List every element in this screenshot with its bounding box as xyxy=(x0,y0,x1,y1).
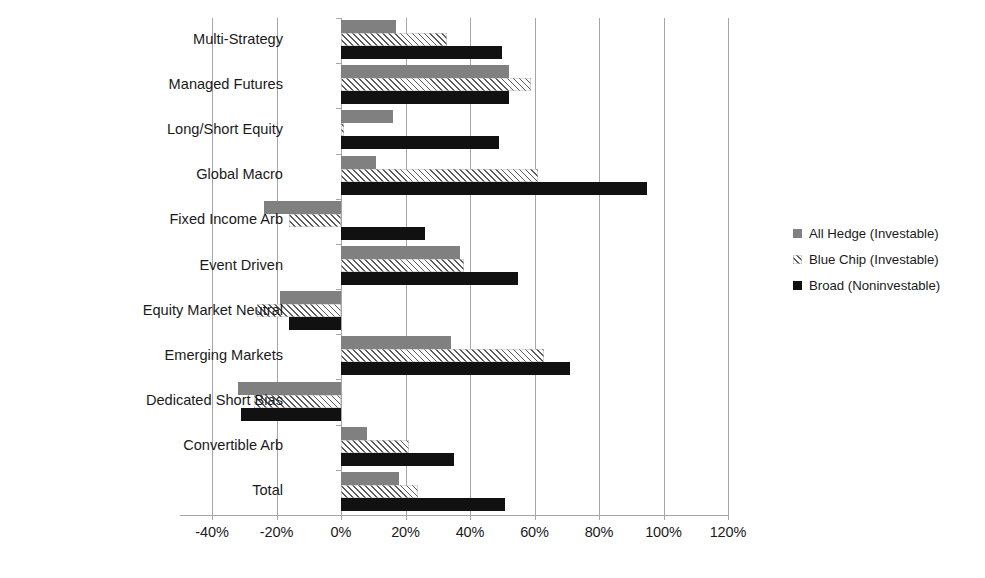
bar xyxy=(341,472,399,485)
category-tickmark xyxy=(336,379,341,380)
bar xyxy=(341,136,499,149)
legend-item[interactable]: Broad (Noninvestable) xyxy=(793,272,983,298)
bar xyxy=(341,485,418,498)
category-tickmark xyxy=(336,154,341,155)
bar xyxy=(341,246,460,259)
category-tickmark xyxy=(336,63,341,64)
bar xyxy=(341,78,531,91)
legend-label: Blue Chip (Investable) xyxy=(809,252,939,267)
bar xyxy=(341,169,538,182)
bar xyxy=(241,408,341,421)
category-tickmark xyxy=(336,289,341,290)
x-tickmark xyxy=(277,515,278,520)
x-tickmark xyxy=(599,515,600,520)
x-tickmark xyxy=(470,515,471,520)
category-label: Multi-Strategy xyxy=(193,32,283,47)
bar xyxy=(341,110,393,123)
bar xyxy=(341,453,454,466)
category-label: Event Driven xyxy=(199,258,283,273)
bar xyxy=(280,291,341,304)
category-label: Equity Market Neutral xyxy=(143,303,283,318)
legend-label: Broad (Noninvestable) xyxy=(809,278,940,293)
x-tickmark xyxy=(406,515,407,520)
bar xyxy=(341,362,570,375)
x-axis-line xyxy=(180,515,729,516)
category-tickmark xyxy=(336,199,341,200)
category-tickmark xyxy=(336,425,341,426)
x-tickmark xyxy=(664,515,665,520)
x-tickmark xyxy=(728,515,729,520)
x-tickmark xyxy=(212,515,213,520)
bar xyxy=(341,227,425,240)
bar xyxy=(341,272,518,285)
category-label: Emerging Markets xyxy=(165,348,283,363)
legend-item[interactable]: Blue Chip (Investable) xyxy=(793,246,983,272)
bar xyxy=(341,349,544,362)
category-label: Long/Short Equity xyxy=(167,122,283,137)
bar xyxy=(341,440,409,453)
legend-swatch-icon xyxy=(793,229,802,238)
bar xyxy=(341,123,344,136)
x-tickmark xyxy=(535,515,536,520)
gridline-60 xyxy=(535,18,536,515)
category-label: Total xyxy=(252,483,283,498)
legend-item[interactable]: All Hedge (Investable) xyxy=(793,220,983,246)
legend-swatch-icon xyxy=(793,255,802,264)
bar xyxy=(341,498,505,511)
category-tickmark xyxy=(336,334,341,335)
legend-swatch-icon xyxy=(793,281,802,290)
category-label: Convertible Arb xyxy=(183,438,283,453)
plot-area xyxy=(341,18,728,515)
gridline-100 xyxy=(664,18,665,515)
x-tick-label: 120% xyxy=(688,524,768,540)
x-tickmark xyxy=(341,515,342,520)
bar xyxy=(341,20,396,33)
bar xyxy=(341,91,509,104)
bar xyxy=(341,65,509,78)
category-tickmark xyxy=(336,244,341,245)
bar xyxy=(341,259,464,272)
category-label: Fixed Income Arb xyxy=(169,212,283,227)
legend-label: All Hedge (Investable) xyxy=(809,226,939,241)
gridline-120 xyxy=(728,18,729,515)
bar xyxy=(341,336,451,349)
bar xyxy=(289,317,341,330)
category-tickmark xyxy=(336,470,341,471)
category-label: Global Macro xyxy=(196,167,283,182)
chart-legend: All Hedge (Investable)Blue Chip (Investa… xyxy=(793,220,983,298)
bar xyxy=(341,33,447,46)
bar xyxy=(289,214,341,227)
gridline-80 xyxy=(599,18,600,515)
category-label: Managed Futures xyxy=(169,77,283,92)
bar xyxy=(341,427,367,440)
bar xyxy=(341,46,502,59)
bar-chart: -40%-20%0%20%40%60%80%100%120% Multi-Str… xyxy=(0,0,985,578)
category-tickmark xyxy=(336,18,341,19)
bar xyxy=(341,156,376,169)
category-tickmark xyxy=(336,108,341,109)
category-label: Dedicated Short Bias xyxy=(146,393,283,408)
bar xyxy=(341,182,647,195)
